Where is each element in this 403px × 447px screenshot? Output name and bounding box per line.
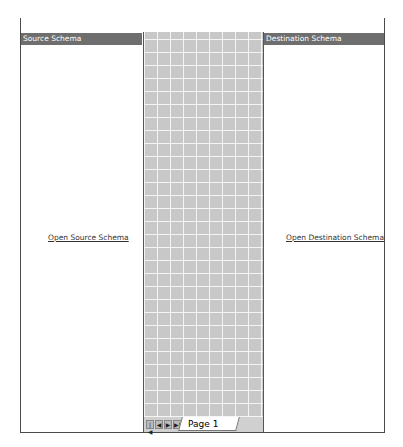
source-schema-header: Source Schema (21, 33, 142, 45)
first-page-button[interactable]: |◀ (146, 420, 154, 429)
page-tab-label[interactable]: Page 1 (188, 418, 218, 431)
open-source-schema-link[interactable]: Open Source Schema (48, 233, 129, 242)
next-page-button[interactable]: ▶ (164, 420, 172, 429)
open-destination-schema-link[interactable]: Open Destination Schema (286, 233, 384, 242)
source-schema-pane: Open Source Schema (21, 45, 142, 432)
prev-page-button[interactable]: ◀ (155, 420, 163, 429)
mapper-grid[interactable] (143, 32, 264, 417)
destination-schema-pane: Open Destination Schema (264, 45, 384, 432)
page-navigation-bar: |◀ ◀ ▶ ▶| Page 1 (143, 417, 264, 432)
destination-schema-header: Destination Schema (264, 33, 384, 45)
